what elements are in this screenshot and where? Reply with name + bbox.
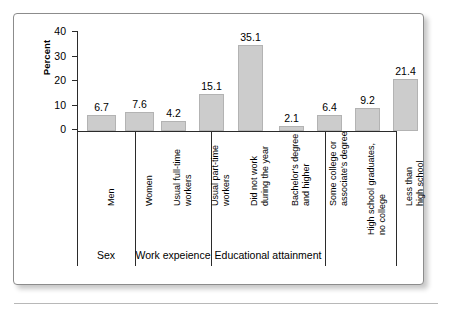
bar-high-school-graduates-no-college[interactable] — [355, 108, 380, 131]
y-tick-30 — [72, 56, 78, 57]
y-tick-label-40: 40 — [26, 26, 66, 36]
bar-usual-part-time-workers[interactable] — [199, 94, 224, 131]
y-tick-label-10: 10 — [26, 100, 66, 110]
bar-value-usual-full-time-workers: 4.2 — [149, 108, 198, 119]
y-tick-40 — [72, 31, 78, 32]
cat-label-usual-part-time-workers-line2: workers — [221, 174, 232, 206]
cat-label-usual-full-time-workers-line2: workers — [183, 174, 194, 206]
cat-label-did-not-work-line2: during the year — [260, 146, 271, 206]
group-label-educational-attainment: Educational attainment — [211, 248, 325, 262]
group-label-row: Sex Work expeience Educational attainmen… — [77, 248, 396, 266]
cat-label-high-school-graduates-line1: High school graduates, — [366, 143, 377, 235]
bar-bachelors-degree-and-higher[interactable] — [279, 126, 304, 131]
group-label-work-experience: Work expeience — [135, 248, 211, 262]
cat-label-usual-part-time-workers-line1: Usual part-time — [210, 145, 221, 206]
y-tick-label-0: 0 — [26, 124, 66, 134]
y-tick-0 — [72, 129, 78, 130]
cat-label-usual-full-time-workers-line1: Usual full-time — [172, 149, 183, 206]
bar-usual-full-time-workers[interactable] — [161, 121, 186, 131]
plot-right-edge — [396, 131, 397, 266]
cat-label-less-than-high-school-line1: Less than — [404, 167, 415, 206]
group-divider-1 — [135, 131, 136, 266]
bar-value-usual-part-time-workers: 15.1 — [187, 81, 236, 92]
figure-frame: Percent 40 30 20 10 0 6.7 Men 7.6 Women … — [13, 13, 424, 285]
cat-label-women-line1: Women — [144, 175, 155, 206]
group-label-sex: Sex — [77, 248, 135, 262]
cat-label-bachelors-line2: and higher — [301, 163, 312, 206]
bar-did-not-work-during-the-year[interactable] — [238, 45, 263, 131]
y-tick-label-30: 30 — [26, 51, 66, 61]
bar-value-did-not-work-during-the-year: 35.1 — [226, 32, 275, 43]
cat-label-some-college-line2: associate's degree — [339, 131, 350, 206]
y-tick-label-20: 20 — [26, 75, 66, 85]
cat-label-bachelors-line1: Bachelor's degree — [290, 134, 301, 206]
cat-label-high-school-graduates-line2: no college — [377, 194, 388, 235]
cat-label-did-not-work-line1: Did not work — [249, 156, 260, 206]
group-divider-3 — [325, 131, 326, 266]
y-tick-20 — [72, 80, 78, 81]
cat-label-less-than-high-school-line2: high school — [415, 160, 426, 206]
bar-less-than-high-school[interactable] — [393, 79, 418, 131]
bar-men[interactable] — [87, 115, 116, 131]
plot-left-edge — [77, 131, 78, 266]
bar-value-bachelors-degree-and-higher: 2.1 — [267, 113, 316, 124]
cat-label-men-line1: Men — [106, 188, 117, 206]
bar-value-high-school-graduates-no-college: 9.2 — [343, 95, 392, 106]
bar-chart-plot: Percent 40 30 20 10 0 6.7 Men 7.6 Women … — [14, 14, 423, 284]
cat-label-some-college-line1: Some college or — [328, 141, 339, 206]
bar-value-less-than-high-school: 21.4 — [381, 66, 430, 77]
y-axis-line — [77, 31, 78, 131]
bottom-rule — [14, 303, 438, 304]
bar-some-college-or-associates-degree[interactable] — [317, 115, 342, 131]
